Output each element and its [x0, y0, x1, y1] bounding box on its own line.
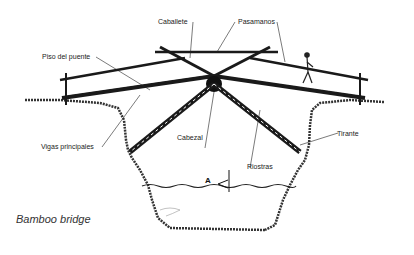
label-riostras: Riostras [247, 163, 273, 171]
section-marker-label: A [205, 176, 211, 185]
water-ripple [160, 208, 180, 216]
leader-lines [96, 22, 338, 168]
figure-caption: Bamboo bridge [16, 213, 91, 225]
label-caballete: Caballete [158, 18, 188, 26]
label-vigas-principales: Vigas principales [41, 143, 94, 151]
main-beams [130, 84, 300, 152]
label-tirante: Tirante [337, 130, 359, 138]
section-marker-icon [218, 170, 229, 192]
water-surface [142, 185, 296, 188]
label-pasamanos: Pasamanos [238, 18, 275, 26]
right-bank [265, 100, 384, 230]
left-bank [25, 100, 170, 228]
river-bed [170, 228, 265, 230]
label-piso-del-puente: Piso del puente [42, 53, 90, 61]
label-cabezal: Cabezal [177, 134, 203, 142]
